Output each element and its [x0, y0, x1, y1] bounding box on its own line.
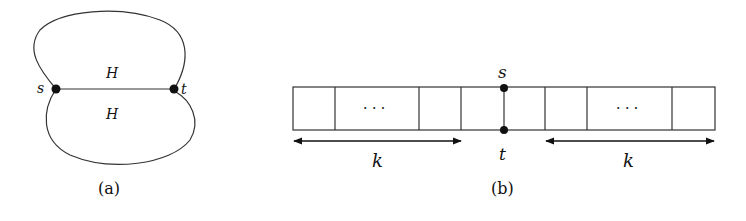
ellipsis-right: · · · [616, 100, 638, 116]
label-k-left: k [372, 150, 383, 171]
ellipsis-left: · · · [363, 100, 385, 116]
node-s [52, 85, 61, 94]
node-s [500, 84, 508, 92]
label-upper-h: H [105, 65, 119, 81]
label-s: s [498, 62, 507, 82]
label-lower-h: H [105, 106, 119, 122]
label-t: t [181, 81, 187, 97]
panel-b: · · · · · · s t k k (b) [293, 62, 715, 198]
panel-a: s t H H (a) [34, 11, 195, 198]
label-t: t [499, 144, 506, 164]
caption-b: (b) [491, 179, 514, 198]
figure: s t H H (a) · · · · · · s t k k (b) [0, 0, 746, 221]
node-t [170, 85, 179, 94]
caption-a: (a) [98, 179, 120, 198]
lower-loop [46, 89, 195, 164]
node-t [500, 126, 508, 134]
label-s: s [37, 80, 44, 96]
label-k-right: k [623, 150, 634, 171]
